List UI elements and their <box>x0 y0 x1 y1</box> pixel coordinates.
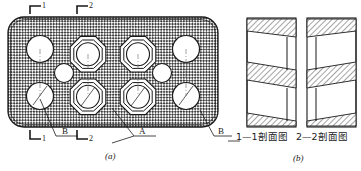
small-hole-right <box>153 64 172 83</box>
subfigure-caption-b: (b) <box>293 154 304 163</box>
section-view-2-2 <box>307 18 356 127</box>
plate-body <box>8 17 218 127</box>
leader-label-b-left: B <box>62 127 68 136</box>
technical-drawing-canvas <box>0 0 361 171</box>
section-view-1-1-caption: 1—1剖面图 <box>236 132 288 142</box>
small-hole-left <box>55 64 74 83</box>
leader-label-b-right: B <box>218 127 224 136</box>
section-mark-bottom-1-label: 1 <box>42 135 46 143</box>
section-view-1-1 <box>247 18 296 127</box>
section-mark-top-1-label: 1 <box>42 2 46 10</box>
section-mark-top-2-label: 2 <box>89 2 93 10</box>
section-mark-bottom-2 <box>77 130 88 139</box>
figure-root: 1 2 1 2 B A B (a) (b) 1—1剖面图 2—2剖面图 <box>0 0 361 171</box>
leader-label-a-center: A <box>139 127 146 136</box>
section-view-2-2-caption: 2—2剖面图 <box>296 132 348 142</box>
subfigure-caption-a: (a) <box>105 152 116 161</box>
section-mark-bottom-1 <box>30 130 41 139</box>
plan-view-group <box>8 6 232 143</box>
section-mark-top-2 <box>77 6 88 14</box>
section-mark-bottom-2-label: 2 <box>89 135 93 143</box>
section-views-group <box>228 18 356 141</box>
section-mark-top-1 <box>30 6 41 14</box>
